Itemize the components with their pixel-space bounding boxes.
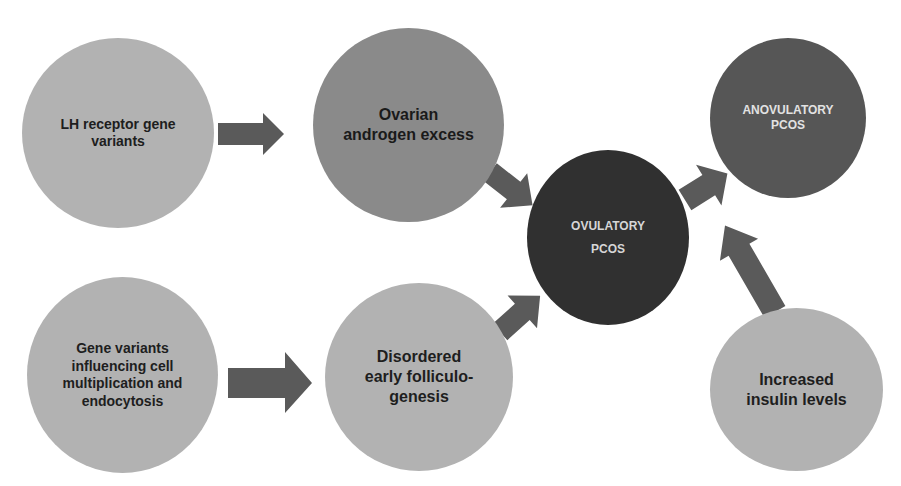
node-lh-receptor-gene-variants: LH receptor gene variants <box>22 38 214 228</box>
node-anovulatory-pcos: ANOVULATORY PCOS <box>710 38 866 198</box>
node-gene-variants-cell-multiplication: Gene variants influencing cell multiplic… <box>27 277 218 473</box>
node-label: OVULATORY PCOS <box>568 215 648 261</box>
node-label: LH receptor gene variants <box>53 116 183 151</box>
node-label: Gene variants influencing cell multiplic… <box>58 340 188 410</box>
arrow-up-icon <box>706 214 794 323</box>
node-increased-insulin-levels: Increased insulin levels <box>710 308 883 471</box>
node-disordered-folliculogenesis: Disordered early folliculo-genesis <box>325 283 513 471</box>
node-label: Ovarian androgen excess <box>341 105 476 145</box>
node-ovarian-androgen-excess: Ovarian androgen excess <box>313 28 504 222</box>
node-label: Disordered early folliculo-genesis <box>363 347 475 407</box>
pcos-pathway-diagram: LH receptor gene variants Ovarian androg… <box>0 0 901 486</box>
arrow-right-icon <box>218 113 284 155</box>
node-label: Increased insulin levels <box>742 370 852 410</box>
node-label: ANOVULATORY PCOS <box>738 103 838 133</box>
node-ovulatory-pcos: OVULATORY PCOS <box>527 150 689 325</box>
arrow-right-icon <box>228 352 312 413</box>
